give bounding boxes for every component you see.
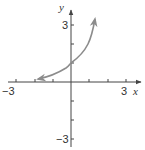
x-axis-label: x — [132, 85, 138, 97]
graph: y 3 −3 3 x −3 — [0, 0, 145, 150]
y-axis-label: y — [58, 1, 64, 13]
x-max-label: 3 — [121, 85, 127, 97]
y-min-label: −3 — [56, 133, 69, 145]
x-min-label: −3 — [2, 85, 15, 97]
y-max-label: 3 — [62, 19, 68, 31]
